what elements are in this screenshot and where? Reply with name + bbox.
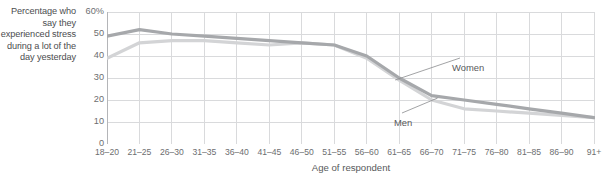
y-axis-tick-label: 40 [78, 51, 104, 60]
y-axis-tick-label: 60% [78, 7, 104, 16]
series-label-women: Women [452, 62, 484, 73]
x-axis-tick-label: 86–90 [550, 147, 574, 157]
x-axis-tick-label: 46–50 [290, 147, 314, 157]
y-axis-tick-label: 20 [78, 95, 104, 104]
x-axis-tick-label: 56–60 [355, 147, 379, 157]
series-lines [107, 30, 594, 118]
x-axis-tick-labels: 18–2021–2526–3031–3536–4041–4546–5051–55… [107, 147, 595, 161]
x-axis-tick-label: 91+ [587, 147, 602, 157]
y-axis-tick-label: 50 [78, 29, 104, 38]
x-axis-tick-label: 51–55 [322, 147, 346, 157]
stress-by-age-line-chart: Percentage who say they experienced stre… [0, 0, 603, 180]
x-axis-tick-label: 81–85 [517, 147, 541, 157]
y-axis-tick-label: 30 [78, 73, 104, 82]
plot-svg [107, 12, 595, 144]
x-axis-tick-label: 41–45 [257, 147, 281, 157]
x-axis-tick-label: 21–25 [128, 147, 152, 157]
x-axis-tick-label: 36–40 [225, 147, 249, 157]
plot-area [107, 12, 595, 144]
x-axis-tick-label: 66–70 [420, 147, 444, 157]
gridlines [107, 12, 595, 144]
y-axis-caption: Percentage who say they experienced stre… [0, 6, 76, 64]
series-label-men: Men [394, 117, 412, 128]
x-axis-tick-label: 71–75 [452, 147, 476, 157]
x-axis-tick-label: 18–20 [95, 147, 119, 157]
x-axis-tick-label: 26–30 [160, 147, 184, 157]
x-axis-title: Age of respondent [107, 162, 595, 173]
y-axis-tick-label: 10 [78, 117, 104, 126]
x-axis-tick-label: 31–35 [192, 147, 216, 157]
x-axis-tick-label: 61–65 [387, 147, 411, 157]
x-axis-tick-label: 76–80 [485, 147, 509, 157]
